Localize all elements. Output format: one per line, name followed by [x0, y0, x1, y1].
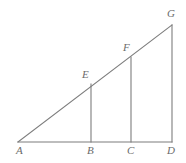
geometry-figure: A B C D E F G [0, 0, 186, 163]
vertex-label-B: B [87, 145, 94, 156]
vertex-label-D: D [167, 145, 175, 156]
vertex-label-A: A [16, 145, 23, 156]
segment-hypotenuse-AG [18, 25, 172, 142]
vertex-label-E: E [82, 69, 89, 80]
vertex-label-G: G [167, 8, 175, 19]
vertex-label-C: C [127, 145, 134, 156]
figure-canvas [0, 0, 186, 163]
vertex-label-F: F [123, 42, 130, 53]
